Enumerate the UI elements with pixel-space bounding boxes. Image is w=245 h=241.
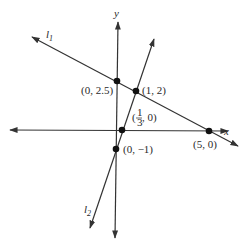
point-label-third-0: ( 1 3 , 0)	[132, 106, 157, 128]
svg-text:(: (	[132, 111, 136, 124]
point-0-neg1	[113, 146, 120, 153]
point-third-0	[119, 127, 126, 134]
point-5-0	[206, 128, 213, 135]
x-axis-label: x	[223, 125, 229, 137]
y-axis-label: y	[113, 7, 119, 19]
point-label-0-neg1: (0, −1)	[123, 143, 153, 156]
point-1-2	[133, 88, 140, 95]
line-l2-label: l2	[84, 203, 91, 218]
point-label-5-0: (5, 0)	[193, 138, 217, 151]
svg-text:, 0): , 0)	[142, 111, 157, 124]
point-0-2.5	[114, 78, 121, 85]
line-l2	[90, 39, 154, 228]
point-label-0-2.5: (0, 2.5)	[81, 84, 113, 97]
coordinate-diagram: y x l1 l2 (0, 2.5) (1, 2) ( 1 3 , 0) (0,…	[0, 0, 245, 241]
line-l1-label: l1	[46, 28, 53, 43]
point-label-1-2: (1, 2)	[142, 84, 166, 97]
